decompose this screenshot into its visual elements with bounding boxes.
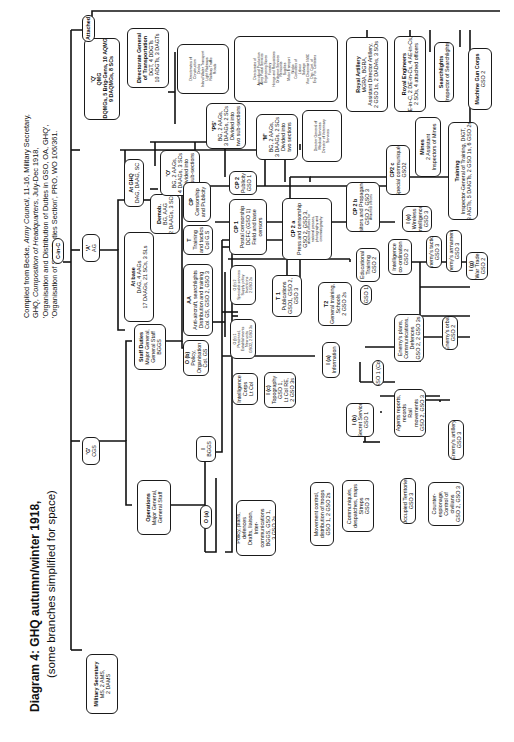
node-gso1-col: GSO 1 (Col) [372, 360, 384, 386]
node-intel-coordination: Intelligence co-ordination GSO 2 [388, 239, 412, 275]
node-cp2: CP 2 Publicity GSO 1 [229, 171, 257, 195]
node-demob: Demob. BG, AAG 2 DAAGs, 3 SCs [150, 194, 180, 234]
node-military-secretary: Military Secretary MS, 2 AMS, 2 DAMS [86, 654, 118, 714]
node-o-b: O (b) Policy, Organisation Col. GS [183, 340, 209, 376]
node-aa: AA Anti-aircraft, searchlights Distribut… [183, 264, 213, 336]
node-staff-duties: Staff Duties Major General, General Staf… [134, 324, 166, 370]
node-royal-artillery: Royal Artillery MGRA, BGRA, Assistant Di… [346, 37, 388, 112]
node-t-training-tactics: T Training and tactics Col G.S [183, 225, 213, 255]
node-t2-general-training: T2 General training, Schools 2 GSO 2s [318, 282, 352, 326]
node-enemy-armaments: Enemy's armaments GSO 3 [446, 230, 462, 272]
node-cp2c: CP2 c Special communiqués GSO2 [386, 145, 410, 195]
node-o-a: O (a) [200, 505, 212, 529]
node-g-cgs: 'G' CGS [82, 437, 100, 465]
node-agents-reports: Agents reports, records Rail movements G… [394, 389, 426, 437]
node-c-in-c: C-in-C [52, 238, 64, 264]
node-enemy-artillery: Enemy's artillery GSO 3 [448, 420, 464, 460]
node-at-base: At base DAG, 4 AAGs 17 DAAGs, 21 SCs, 3 … [124, 232, 154, 322]
node-movement-control: Movement control, distribution of troops… [310, 482, 334, 546]
node-o-b-2: O (b) 2 Specialist services Supply polic… [230, 265, 256, 305]
diagram-canvas: Diagram 4: GHQ autumn/winter 1918, (some… [0, 0, 514, 742]
node-at-ghq: At GHQ DAG, DAAG, SC [124, 159, 144, 207]
node-operations: Operations Major General, General Staff [137, 480, 171, 535]
node-i-c-topography: I (c) Topography GSO 1, Lt Col RE, 2 GSO… [264, 372, 296, 408]
node-royal-engineers: Royal Engineers E-in-C, 2 DE-in-Cs, 4 AE… [394, 36, 426, 112]
node-enemy-orbat: Enemy's orbat GSO 2 [442, 316, 458, 350]
node-searchlights: Searchlights Inspector of Searchlights [434, 42, 454, 102]
node-mines: Mines 2 Assistant Inspectors of Mines [415, 117, 441, 177]
node-i-bggs: I BGGS [196, 436, 216, 462]
node-dir-construction: Directorates of Construction Docks Inlan… [177, 44, 229, 94]
node-enemy-plans: Enemy's plans, Communications, Defences … [394, 314, 424, 362]
node-counter-espionage: Counter- espionage, Control of civilians… [428, 482, 464, 526]
node-ag-m: 'M' BG, 2 AAGs, 3 DAAGs, 2 SCs Divided i… [256, 114, 298, 160]
node-dg-medical: Director General of Medical Services Dir… [302, 110, 342, 162]
node-enemy-tactics: Enemy's tactics GSO 3 [426, 236, 442, 268]
node-i-a-information: I (a) Information [322, 342, 340, 378]
node-ag-ps: 'PS' BG, 2 AAGs, 3 DAAGs, 2 SCs Divided … [206, 103, 246, 149]
node-occupied-territories: Occupied Territories GSO 3 [400, 478, 416, 524]
node-a-ag: 'A' AG [82, 234, 100, 262]
node-machine-gun-corps: Machine Gun Corps GSO 2 [468, 48, 492, 110]
node-attached: Attached [82, 15, 95, 42]
node-t1-publications: T 1 Publications GSO1, GSO 2, GSO 3 [272, 275, 302, 317]
node-training: Training Inspector-General of Training, … [448, 122, 478, 220]
node-q-qmg: 'Q' QMG 2 DQMGs, 5 Brig-Gens, 10 AQMGs 9… [84, 38, 120, 120]
node-dg-transportation: Directorate General of Transportation DG… [127, 28, 169, 88]
node-intelligence-corps: Intelligence Corps Lt Col [232, 373, 258, 405]
node-i-e-wireless: I (e) Wireless intelligence GSO 3 [402, 206, 432, 232]
node-policy-plans: Policy, plans, defences Drafts, liaison,… [236, 500, 276, 556]
node-cp1: CP 1 Postal censorship DCFC (GSO 1) Fiel… [229, 199, 267, 255]
node-communiques: Communiqués, despatches, maps Sitreps GS… [342, 480, 374, 532]
node-cp2a: CP 2 a Press and censorship GSO 2, GSO 3… [282, 198, 332, 260]
connector-lines [0, 0, 514, 742]
node-dir-agricultural: Directorates of Agricultural Production … [234, 36, 338, 102]
node-i-g-war-trade: I (g) War Trade GSO 2 [466, 252, 488, 280]
node-i-b-secret-service: I (b) Secret Service GSO 1 [346, 403, 374, 437]
node-o-b-1: O (b) 1 Personnel, Establishments New un… [230, 319, 256, 359]
node-gso1: GSO 1 [360, 285, 372, 305]
node-educational-training: Educational Training GSO 2 [356, 248, 380, 282]
node-cp: CP Censorship and Publicity [183, 182, 211, 222]
node-cp2b: CP 2 b Visitors and Propaganda GSO 2, GS… [346, 182, 380, 232]
